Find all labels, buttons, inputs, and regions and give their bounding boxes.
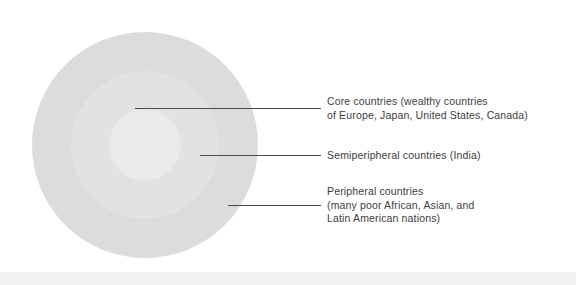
label-peripheral-countries: Peripheral countries (many poor African,… bbox=[327, 185, 475, 226]
label-core-countries: Core countries (wealthy countries of Eur… bbox=[327, 95, 528, 122]
page-bottom-band bbox=[0, 272, 576, 285]
leader-line-core-countries bbox=[135, 108, 321, 109]
leader-line-peripheral-countries bbox=[228, 205, 321, 206]
leader-line-semiperipheral-countries bbox=[200, 155, 321, 156]
diagram-canvas: Core countries (wealthy countries of Eur… bbox=[0, 0, 576, 285]
circle-core-countries bbox=[109, 109, 181, 181]
label-semiperipheral-countries: Semiperipheral countries (India) bbox=[327, 149, 481, 163]
